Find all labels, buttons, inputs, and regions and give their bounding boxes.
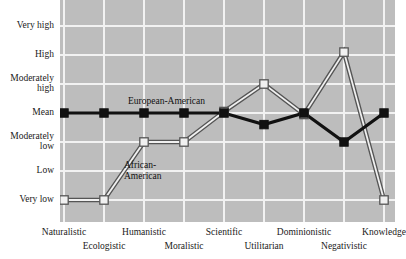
data-point-european-american	[300, 109, 308, 117]
data-point-african-american	[180, 138, 188, 146]
x-axis-tick-label: Naturalistic	[42, 227, 86, 238]
x-axis-tick-label: Dominionistic	[277, 227, 331, 238]
plot-area: European-American African- American	[60, 0, 395, 222]
series-line-african-american-outline	[64, 52, 384, 200]
series-label-european-american: European-American	[128, 96, 205, 107]
x-axis-tick-label: Humanistic	[122, 227, 166, 238]
series-label-african-american: African- American	[124, 160, 161, 181]
y-axis-tick-label: Mean	[32, 107, 54, 117]
data-point-african-american	[260, 80, 268, 88]
data-point-european-american	[220, 109, 228, 117]
data-point-european-american	[260, 120, 268, 128]
data-point-african-american	[140, 138, 148, 146]
x-axis-tick-label: Utilitarian	[244, 241, 283, 252]
y-axis: Very highHighModerately highMeanModerate…	[0, 0, 58, 222]
data-point-european-american	[100, 109, 108, 117]
x-axis-tick-label: Negativistic	[321, 241, 367, 252]
y-axis-tick-label: Very low	[19, 194, 54, 204]
data-point-african-american	[340, 48, 348, 56]
y-axis-tick-label: Very high	[17, 20, 54, 30]
series-layer	[60, 0, 395, 222]
y-axis-tick-label: Moderately high	[10, 73, 54, 93]
x-axis: NaturalisticEcologisticHumanisticMoralis…	[0, 222, 395, 259]
data-point-african-american	[100, 196, 108, 204]
x-axis-tick-label: Ecologistic	[83, 241, 126, 252]
y-axis-tick-label: Low	[37, 165, 54, 175]
y-axis-tick-label: High	[35, 49, 54, 59]
y-axis-tick-label: Moderately low	[10, 131, 54, 151]
data-point-european-american	[380, 109, 388, 117]
data-point-european-american	[180, 109, 188, 117]
x-axis-tick-label: Knowledge	[362, 227, 406, 238]
data-point-european-american	[60, 109, 68, 117]
data-point-african-american	[60, 196, 68, 204]
data-point-african-american	[380, 196, 388, 204]
series-line-african-american	[64, 52, 384, 200]
data-point-european-american	[140, 109, 148, 117]
x-axis-tick-label: Moralistic	[164, 241, 203, 252]
data-point-european-american	[340, 138, 348, 146]
x-axis-tick-label: Scientific	[206, 227, 242, 238]
